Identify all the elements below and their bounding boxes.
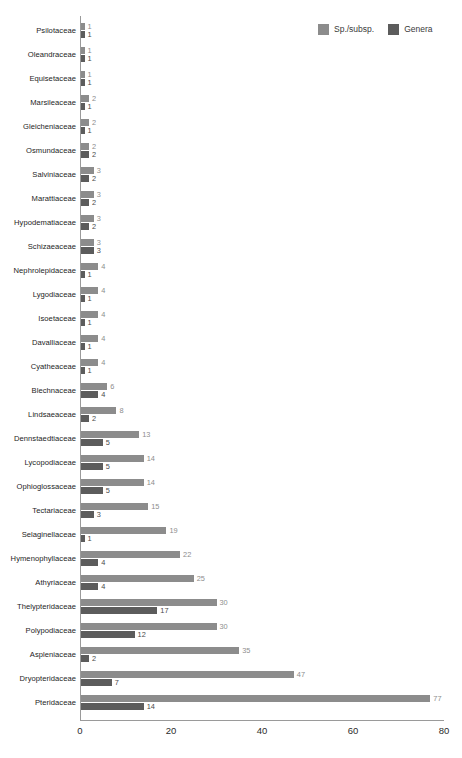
bar-value-label: 47 — [297, 671, 305, 678]
bar-group: 33 — [80, 234, 462, 258]
bar-rect — [80, 575, 194, 582]
category-label: Pteridaceae — [0, 690, 76, 714]
bar-sp-subsp: 2 — [80, 95, 96, 102]
category-label: Lindsaeaceae — [0, 402, 76, 426]
bar-value-label: 4 — [101, 391, 105, 398]
bar-row: Lygodiaceae41 — [0, 282, 462, 306]
bar-group: 32 — [80, 186, 462, 210]
bar-sp-subsp: 1 — [80, 47, 92, 54]
bar-value-label: 77 — [433, 695, 441, 702]
category-label: Hymenophyllaceae — [0, 546, 76, 570]
y-axis-line — [80, 16, 81, 720]
bar-value-label: 4 — [101, 583, 105, 590]
bar-sp-subsp: 30 — [80, 623, 228, 630]
bar-sp-subsp: 30 — [80, 599, 228, 606]
bar-rect — [80, 287, 98, 294]
bar-row: Davalliaceae41 — [0, 330, 462, 354]
bar-row: Lycopodiaceae145 — [0, 450, 462, 474]
bar-value-label: 19 — [169, 527, 177, 534]
bar-sp-subsp: 47 — [80, 671, 305, 678]
bar-rect — [80, 311, 98, 318]
category-label: Tectariaceae — [0, 498, 76, 522]
category-label: Aspleniaceae — [0, 642, 76, 666]
bar-genera: 3 — [80, 511, 101, 518]
bar-row: Isoetaceae41 — [0, 306, 462, 330]
bar-group: 41 — [80, 258, 462, 282]
bar-value-label: 3 — [97, 511, 101, 518]
bar-rect — [80, 559, 98, 566]
bar-value-label: 30 — [220, 623, 228, 630]
bar-rect — [80, 359, 98, 366]
bar-rect — [80, 175, 89, 182]
bar-rect — [80, 695, 430, 702]
bar-genera: 4 — [80, 583, 105, 590]
category-label: Polypodiaceae — [0, 618, 76, 642]
category-label: Equisetaceae — [0, 66, 76, 90]
bar-value-label: 22 — [183, 551, 191, 558]
bar-group: 145 — [80, 450, 462, 474]
bar-rect — [80, 583, 98, 590]
bar-value-label: 25 — [197, 575, 205, 582]
category-label: Osmundaceae — [0, 138, 76, 162]
bar-group: 477 — [80, 666, 462, 690]
x-tick-label: 0 — [77, 725, 82, 736]
category-label: Gleicheniaceae — [0, 114, 76, 138]
category-label: Dryopteridaceae — [0, 666, 76, 690]
bar-rect — [80, 463, 103, 470]
bar-sp-subsp: 4 — [80, 263, 105, 270]
bar-row: Psilotaceae11 — [0, 18, 462, 42]
bar-value-label: 1 — [88, 71, 92, 78]
bar-genera: 2 — [80, 223, 96, 230]
bar-row: Pteridaceae7714 — [0, 690, 462, 714]
bar-genera: 17 — [80, 607, 169, 614]
bar-sp-subsp: 3 — [80, 215, 101, 222]
bar-group: 11 — [80, 66, 462, 90]
bar-genera: 1 — [80, 367, 92, 374]
bar-row: Cyatheaceae41 — [0, 354, 462, 378]
bar-value-label: 1 — [88, 367, 92, 374]
bar-value-label: 5 — [106, 487, 110, 494]
bar-rect — [80, 503, 148, 510]
bar-row: Blechnaceae64 — [0, 378, 462, 402]
bar-genera: 2 — [80, 655, 96, 662]
bar-value-label: 1 — [88, 319, 92, 326]
bar-value-label: 13 — [142, 431, 150, 438]
bar-row: Oleandraceae11 — [0, 42, 462, 66]
category-label: Psilotaceae — [0, 18, 76, 42]
bar-row: Thelypteridaceae3017 — [0, 594, 462, 618]
bar-genera: 1 — [80, 127, 92, 134]
bar-group: 224 — [80, 546, 462, 570]
bar-genera: 2 — [80, 415, 96, 422]
bar-rect — [80, 647, 239, 654]
bar-rect — [80, 199, 89, 206]
category-label: Cyatheaceae — [0, 354, 76, 378]
bar-value-label: 3 — [97, 215, 101, 222]
bar-group: 191 — [80, 522, 462, 546]
bar-rect — [80, 511, 94, 518]
bar-value-label: 2 — [92, 143, 96, 150]
bar-genera: 1 — [80, 535, 92, 542]
bar-row: Gleicheniaceae21 — [0, 114, 462, 138]
bar-group: 11 — [80, 18, 462, 42]
bar-value-label: 1 — [88, 103, 92, 110]
bar-rect — [80, 551, 180, 558]
bar-value-label: 6 — [110, 383, 114, 390]
category-label: Davalliaceae — [0, 330, 76, 354]
bar-value-label: 30 — [220, 599, 228, 606]
bar-value-label: 2 — [92, 655, 96, 662]
x-axis-line — [80, 720, 444, 721]
bar-value-label: 2 — [92, 175, 96, 182]
bar-rect — [80, 247, 94, 254]
bar-group: 21 — [80, 114, 462, 138]
bar-rect — [80, 703, 144, 710]
bar-row: Marattiaceae32 — [0, 186, 462, 210]
bar-sp-subsp: 2 — [80, 119, 96, 126]
bar-sp-subsp: 4 — [80, 335, 105, 342]
bar-rect — [80, 607, 157, 614]
bar-rect — [80, 631, 135, 638]
bar-value-label: 2 — [92, 119, 96, 126]
bar-row: Dennstaedtiaceae135 — [0, 426, 462, 450]
bar-sp-subsp: 15 — [80, 503, 159, 510]
category-label: Hypodematiaceae — [0, 210, 76, 234]
bar-row: Aspleniaceae352 — [0, 642, 462, 666]
